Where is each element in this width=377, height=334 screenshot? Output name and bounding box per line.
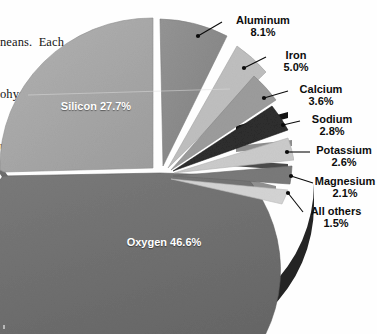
sodium-label-pct: 2.8% bbox=[300, 125, 364, 137]
allothers-callout-label: All others 1.5% bbox=[300, 205, 372, 230]
silicon-label-name: Silicon bbox=[61, 100, 97, 112]
scan-speck bbox=[3, 325, 5, 329]
aluminum-leader-dot bbox=[196, 34, 200, 38]
iron-leader-dot bbox=[242, 66, 246, 70]
potassium-callout-label: Potassium 2.6% bbox=[310, 144, 377, 169]
allothers-leader-dot bbox=[286, 191, 290, 195]
oxygen-slice[interactable] bbox=[0, 173, 281, 334]
iron-label-name: Iron bbox=[268, 49, 324, 61]
potassium-leader-dot bbox=[285, 150, 289, 154]
aluminum-label-pct: 8.1% bbox=[224, 26, 302, 38]
aluminum-callout-label: Aluminum 8.1% bbox=[224, 14, 302, 39]
potassium-label-name: Potassium bbox=[310, 144, 377, 156]
calcium-callout-label: Calcium 3.6% bbox=[288, 83, 354, 108]
pie-chart-figure: neans. Each ohysical used ost . bbox=[0, 0, 377, 334]
allothers-label-pct: 1.5% bbox=[300, 217, 372, 229]
calcium-label-pct: 3.6% bbox=[288, 95, 354, 107]
calcium-label-name: Calcium bbox=[288, 83, 354, 95]
calcium-leader-dot bbox=[262, 96, 266, 100]
magnesium-label-pct: 2.1% bbox=[310, 187, 377, 199]
iron-label-pct: 5.0% bbox=[268, 61, 324, 73]
iron-callout-label: Iron 5.0% bbox=[268, 49, 324, 74]
silicon-slice[interactable] bbox=[0, 18, 153, 172]
sodium-leader-dot bbox=[281, 123, 285, 127]
aluminum-label-name: Aluminum bbox=[224, 14, 302, 26]
magnesium-callout-label: Magnesium 2.1% bbox=[310, 175, 377, 200]
oxygen-label-pct: 46.6% bbox=[170, 236, 201, 248]
oxygen-label-name: Oxygen bbox=[127, 236, 167, 248]
sodium-leader-line bbox=[283, 121, 300, 125]
magnesium-leader-dot bbox=[289, 174, 293, 178]
magnesium-label-name: Magnesium bbox=[310, 175, 377, 187]
potassium-label-pct: 2.6% bbox=[310, 156, 377, 168]
silicon-slice-label: Silicon 27.7% bbox=[52, 100, 140, 113]
sodium-callout-label: Sodium 2.8% bbox=[300, 113, 364, 138]
silicon-label-pct: 27.7% bbox=[100, 100, 131, 112]
oxygen-slice-label: Oxygen 46.6% bbox=[118, 236, 210, 249]
sodium-label-name: Sodium bbox=[300, 113, 364, 125]
allothers-label-name: All others bbox=[300, 205, 372, 217]
